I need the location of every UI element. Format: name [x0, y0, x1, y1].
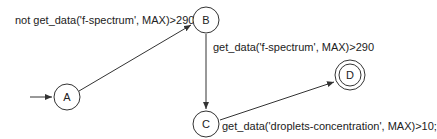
transition-label-a-b: not get_data('f-spectrum', MAX)>290 [15, 14, 194, 26]
state-diagram: not get_data('f-spectrum', MAX)>290 get_… [0, 0, 437, 139]
svg-text:B: B [202, 14, 209, 26]
transition-c-d: get_data('droplets-concentration', MAX)>… [220, 82, 437, 132]
state-a: A [54, 84, 80, 110]
svg-text:A: A [63, 91, 71, 103]
state-c: C [193, 111, 219, 137]
state-b: B [193, 7, 219, 33]
svg-text:D: D [346, 69, 354, 81]
transition-a-b: not get_data('f-spectrum', MAX)>290 [15, 14, 194, 91]
transition-label-b-c: get_data('f-spectrum', MAX)>290 [213, 41, 374, 53]
state-d-final: D [335, 60, 365, 90]
transition-label-c-d: get_data('droplets-concentration', MAX)>… [222, 120, 437, 132]
svg-text:C: C [202, 118, 210, 130]
